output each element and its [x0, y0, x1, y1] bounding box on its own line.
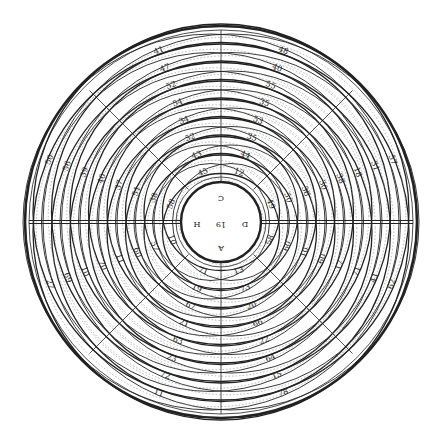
ring-label: 11: [153, 387, 166, 399]
ring-label: 63: [172, 334, 185, 346]
ring-label: 10: [79, 265, 91, 278]
ring-label: 12: [233, 166, 246, 178]
diagram-canvas: CAHD194147525434524345484055355335441250…: [0, 0, 441, 446]
center-label-left: H: [193, 220, 200, 229]
ring-label: 67: [184, 300, 197, 312]
center-label-bottom: A: [218, 244, 225, 253]
ring-label: 10: [166, 233, 178, 246]
center-label-right: D: [242, 220, 248, 229]
ring-label: 35: [258, 97, 271, 109]
ring-label: 37: [113, 179, 125, 192]
ring-label: 40: [271, 62, 284, 74]
ring-label: 71: [197, 265, 210, 277]
ring-label: 35: [245, 131, 258, 143]
ring-label: 39: [78, 166, 90, 179]
ring-label: 45: [197, 166, 210, 178]
ring-label: 60: [131, 246, 143, 259]
ring-label: 58: [165, 198, 177, 211]
ring-label: 53: [252, 114, 265, 126]
ring-label: 55: [264, 79, 277, 91]
ring-label: 70: [97, 259, 109, 272]
ring-label: 72: [159, 369, 172, 381]
ring-label: 19: [191, 282, 204, 294]
ring-label: 69: [62, 271, 74, 284]
concentric-circle-plate: CAHD194147525434524345484055355335441250…: [0, 0, 441, 446]
ring-label: 38: [148, 191, 160, 204]
center-label-top: C: [218, 194, 224, 203]
ring-label: 21: [178, 317, 191, 329]
ring-label: 51: [130, 185, 142, 198]
ring-label: 23: [165, 352, 178, 364]
ring-label: 40: [96, 172, 108, 185]
ring-label: 50: [44, 153, 56, 166]
ring-label: 56: [61, 160, 73, 173]
ring-label: 48: [277, 45, 290, 57]
center-label-middle: 19: [216, 220, 226, 229]
ring-label: 57: [149, 240, 161, 253]
ring-label: 11: [114, 252, 126, 265]
ring-label: 44: [239, 149, 252, 161]
